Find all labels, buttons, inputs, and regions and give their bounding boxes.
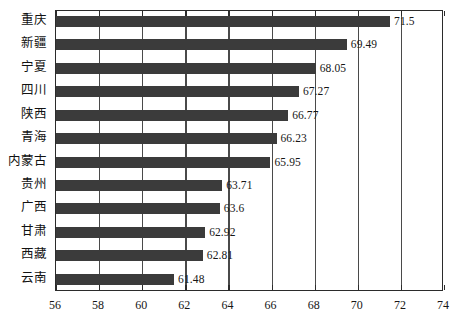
bar bbox=[56, 180, 222, 191]
bar-row: 65.95 bbox=[56, 152, 442, 175]
bar bbox=[56, 16, 390, 27]
x-tick-label: 58 bbox=[92, 296, 104, 314]
category-label: 西藏 bbox=[21, 246, 47, 262]
category-label: 云南 bbox=[21, 270, 47, 286]
bar-row: 71.5 bbox=[56, 11, 442, 34]
category-label: 青海 bbox=[21, 129, 47, 145]
category-label: 内蒙古 bbox=[8, 153, 47, 169]
bar bbox=[56, 86, 299, 97]
bar-value-label: 62.81 bbox=[207, 247, 233, 263]
y-axis-category-labels: 重庆新疆宁夏四川陕西青海内蒙古贵州广西甘肃西藏云南 bbox=[0, 10, 51, 291]
bar-row: 61.48 bbox=[56, 269, 442, 292]
bar bbox=[56, 250, 203, 261]
bar bbox=[56, 63, 316, 74]
category-label: 四川 bbox=[21, 82, 47, 98]
axis-tick bbox=[444, 285, 445, 290]
bar-value-label: 71.5 bbox=[394, 13, 415, 29]
category-label: 宁夏 bbox=[21, 59, 47, 75]
bar-row: 62.81 bbox=[56, 245, 442, 268]
bar-value-label: 65.95 bbox=[274, 154, 300, 170]
x-tick-label: 74 bbox=[437, 296, 449, 314]
category-label: 贵州 bbox=[21, 176, 47, 192]
x-tick-label: 62 bbox=[178, 296, 190, 314]
bar bbox=[56, 274, 174, 285]
x-tick-label: 72 bbox=[394, 296, 406, 314]
bar-value-label: 63.6 bbox=[224, 200, 245, 216]
bar bbox=[56, 227, 205, 238]
category-label: 重庆 bbox=[21, 12, 47, 28]
bar bbox=[56, 157, 270, 168]
bar bbox=[56, 203, 220, 214]
bar-value-label: 69.49 bbox=[351, 36, 377, 52]
category-label: 陕西 bbox=[21, 106, 47, 122]
bar-row: 69.49 bbox=[56, 34, 442, 57]
bar bbox=[56, 39, 347, 50]
bar-row: 63.71 bbox=[56, 175, 442, 198]
x-tick-label: 68 bbox=[308, 296, 320, 314]
category-label: 广西 bbox=[21, 199, 47, 215]
bar-row: 66.23 bbox=[56, 128, 442, 151]
bar-row: 68.05 bbox=[56, 58, 442, 81]
bar-value-label: 67.27 bbox=[303, 83, 329, 99]
x-tick-label: 64 bbox=[221, 296, 233, 314]
category-label: 甘肃 bbox=[21, 223, 47, 239]
bar bbox=[56, 133, 277, 144]
bar-value-label: 68.05 bbox=[320, 60, 346, 76]
plot-area: 71.569.4968.0567.2766.7766.2365.9563.716… bbox=[55, 10, 443, 291]
bar-row: 62.92 bbox=[56, 222, 442, 245]
x-axis-tick-labels: 56586062646668707274 bbox=[0, 296, 461, 320]
bar-row: 67.27 bbox=[56, 81, 442, 104]
x-tick-label: 70 bbox=[351, 296, 363, 314]
bar bbox=[56, 110, 288, 121]
bar-row: 63.6 bbox=[56, 198, 442, 221]
bar-chart: 重庆新疆宁夏四川陕西青海内蒙古贵州广西甘肃西藏云南 71.569.4968.05… bbox=[0, 0, 461, 331]
category-label: 新疆 bbox=[21, 35, 47, 51]
bar-row: 66.77 bbox=[56, 105, 442, 128]
x-tick-label: 60 bbox=[135, 296, 147, 314]
bar-value-label: 66.77 bbox=[292, 107, 318, 123]
x-tick-label: 56 bbox=[49, 296, 61, 314]
bar-value-label: 66.23 bbox=[281, 130, 307, 146]
bar-value-label: 63.71 bbox=[226, 177, 252, 193]
bar-value-label: 61.48 bbox=[178, 271, 204, 287]
axis-tick bbox=[444, 11, 445, 16]
bar-value-label: 62.92 bbox=[209, 224, 235, 240]
x-tick-label: 66 bbox=[265, 296, 277, 314]
